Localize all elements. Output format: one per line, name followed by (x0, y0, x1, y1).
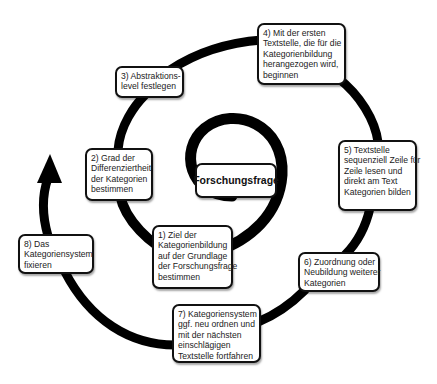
center-label: Forschungsfrage (193, 175, 279, 185)
step-5-line: direkt am Text (344, 176, 411, 186)
step-7-line: einschlägigen (178, 340, 255, 350)
step-4-line: Textstelle, die für die (263, 38, 340, 48)
step-3-line: 3) Abstraktions- (121, 71, 178, 81)
step-8-box: 8) Das Kategoriensystem fixieren (18, 234, 94, 274)
step-8-line: fixieren (24, 260, 88, 270)
step-1-line: bestimmen (158, 272, 227, 282)
step-2-line: 2) Grad der (91, 153, 147, 163)
step-8-line: Kategoriensystem (24, 249, 88, 259)
step-4-line: 4) Mit der ersten (263, 28, 340, 38)
step-5-line: sequenziell Zeile für (344, 155, 411, 165)
step-5-line: Kategorien bilden (344, 187, 411, 197)
step-3-box: 3) Abstraktions- level festlegen (115, 66, 184, 98)
step-7-line: 7) Kategoriensystem (178, 309, 255, 319)
step-1-box: 1) Ziel der Kategorienbildung auf der Gr… (152, 225, 233, 289)
step-1-line: Kategorienbildung (158, 240, 227, 250)
step-4-line: herangezogen wird, (263, 59, 340, 69)
step-6-line: Kategorien (304, 278, 374, 288)
step-7-line: mit der nächsten (178, 330, 255, 340)
step-2-line: Differenziertheit (91, 163, 147, 173)
step-4-line: beginnen (263, 70, 340, 80)
step-5-box: 5) Textstelle sequenziell Zeile für Zeil… (338, 140, 417, 211)
step-7-box: 7) Kategoriensystem ggf. neu ordnen und … (172, 304, 261, 363)
step-1-line: der Forschungsfrage (158, 261, 227, 271)
step-6-line: 6) Zuordnung oder (304, 257, 374, 267)
step-2-line: bestimmen (91, 184, 147, 194)
step-6-line: Neubildung weiterer (304, 267, 374, 277)
step-1-line: 1) Ziel der (158, 230, 227, 240)
step-8-line: 8) Das (24, 239, 88, 249)
step-2-line: der Kategorien (91, 174, 147, 184)
arrow-head-icon (37, 154, 62, 183)
step-4-line: Kategorienbildung (263, 49, 340, 59)
step-5-line: Zeile lesen und (344, 166, 411, 176)
step-3-line: level festlegen (121, 81, 178, 91)
step-7-line: Textstelle fortfahren (178, 351, 255, 361)
step-7-line: ggf. neu ordnen und (178, 319, 255, 329)
step-4-box: 4) Mit der ersten Textstelle, die für di… (257, 23, 346, 85)
center-research-question: Forschungsfrage (195, 163, 277, 198)
step-6-box: 6) Zuordnung oder Neubildung weiterer Ka… (298, 252, 380, 292)
step-5-line: 5) Textstelle (344, 145, 411, 155)
step-2-box: 2) Grad der Differenziertheit der Katego… (85, 148, 153, 201)
step-1-line: auf der Grundlage (158, 251, 227, 261)
